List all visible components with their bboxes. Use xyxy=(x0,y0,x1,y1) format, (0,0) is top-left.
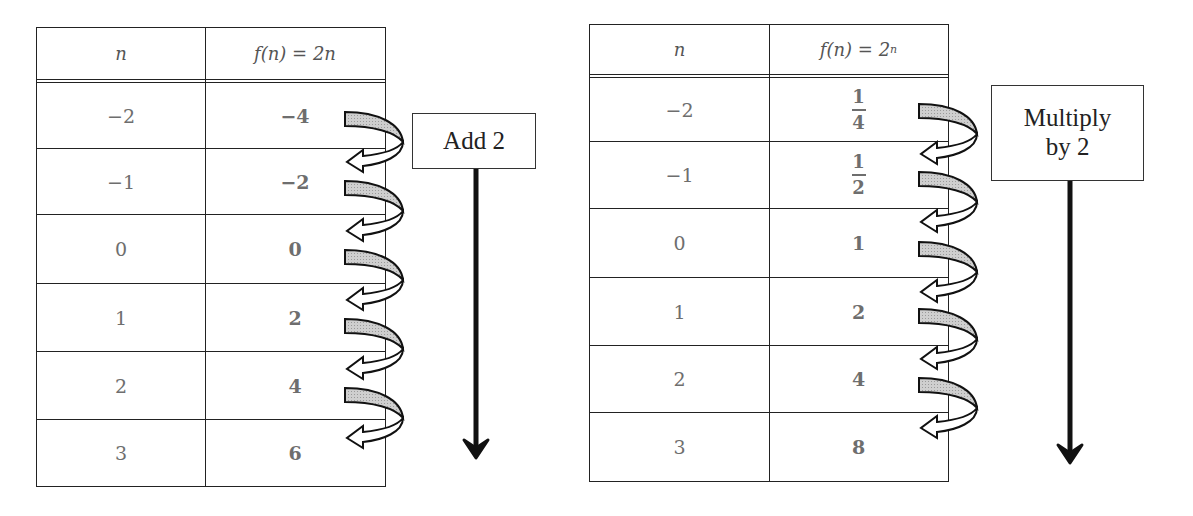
increment-arrows-left xyxy=(345,112,403,448)
arrows-overlay xyxy=(0,0,1193,516)
multiply-arrows-right xyxy=(919,104,977,438)
down-arrow-left xyxy=(464,168,488,458)
add-2-label: Add 2 xyxy=(412,113,536,169)
label-line-2: by 2 xyxy=(1046,133,1090,162)
label-line-1: Multiply xyxy=(1024,104,1112,133)
multiply-by-2-label: Multiply by 2 xyxy=(991,85,1144,181)
down-arrow-right xyxy=(1058,180,1082,463)
